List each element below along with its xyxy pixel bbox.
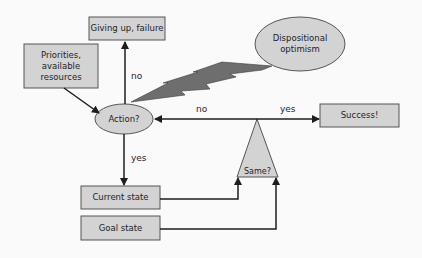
giving-up-node: Giving up, failure <box>89 17 165 40</box>
priorities-label-line-1: Priorities, <box>41 50 81 61</box>
edge-label-same-no: no <box>196 104 207 115</box>
action-node: Action? <box>95 104 153 134</box>
success-label: Success! <box>341 110 379 121</box>
optimism-node: Dispositional optimism <box>255 22 345 66</box>
giving-up-label: Giving up, failure <box>91 23 164 34</box>
same-node: Same? <box>237 166 278 177</box>
priorities-label-line-2: available <box>42 61 80 72</box>
lightning-bolt-icon <box>131 62 272 102</box>
optimism-label-line-1: Dispositional <box>273 33 328 44</box>
edge-goal-state-to-same <box>160 178 276 229</box>
diagram-canvas <box>0 0 422 258</box>
priorities-node: Priorities, available resources <box>24 44 98 88</box>
edge-label-action-no: no <box>131 71 142 82</box>
edge-label-same-yes: yes <box>280 104 296 115</box>
action-label: Action? <box>108 114 139 125</box>
optimism-label-line-2: optimism <box>280 44 320 55</box>
success-node: Success! <box>320 104 399 127</box>
current-state-label: Current state <box>92 192 148 203</box>
edge-priorities-to-action <box>64 88 99 113</box>
goal-state-node: Goal state <box>81 216 160 240</box>
priorities-label-line-3: resources <box>40 72 81 83</box>
same-label: Same? <box>244 166 271 177</box>
goal-state-label: Goal state <box>99 223 143 234</box>
current-state-node: Current state <box>81 186 160 209</box>
edge-label-action-yes: yes <box>131 153 147 164</box>
edge-current-state-to-same <box>160 178 238 199</box>
